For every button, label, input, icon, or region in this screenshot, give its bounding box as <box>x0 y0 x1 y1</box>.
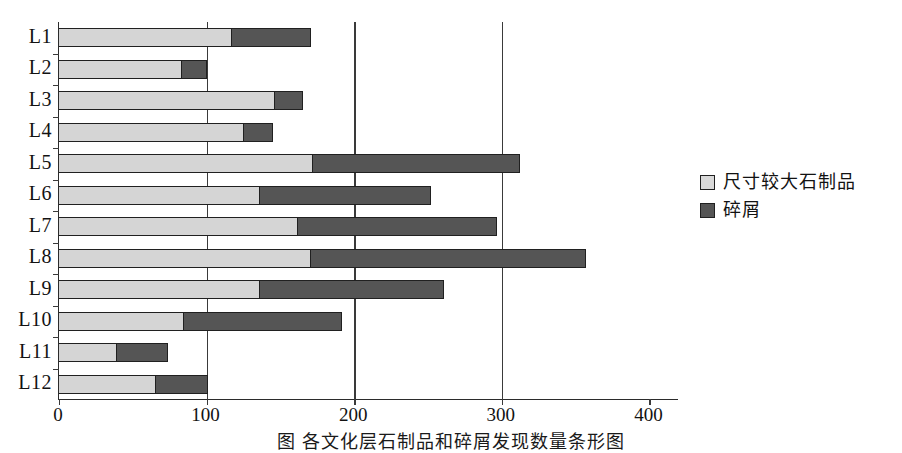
bar-segment-L2-debris <box>182 60 207 79</box>
bar-segment-L11-large-artifacts <box>59 343 117 362</box>
y-tick-L7 <box>53 211 59 212</box>
bar-segment-L11-debris <box>117 343 169 362</box>
chart-legend: 尺寸较大石制品 碎屑 <box>700 168 856 224</box>
bar-row-L5 <box>59 154 520 173</box>
y-axis-label-L2: L2 <box>29 58 52 77</box>
y-axis-label-L4: L4 <box>29 121 52 140</box>
bar-segment-L10-debris <box>184 312 342 331</box>
bar-segment-L8-large-artifacts <box>59 249 311 268</box>
bar-row-L8 <box>59 249 586 268</box>
bar-segment-L1-debris <box>232 28 312 47</box>
bar-row-L7 <box>59 217 497 236</box>
legend-swatch-dark-icon <box>700 203 715 218</box>
y-axis-label-L9: L9 <box>29 279 52 298</box>
bar-segment-L4-large-artifacts <box>59 123 244 142</box>
legend-item-large-artifacts: 尺寸较大石制品 <box>700 168 856 196</box>
y-axis-label-L6: L6 <box>29 184 52 203</box>
legend-item-debris: 碎屑 <box>700 196 856 224</box>
bar-segment-L1-large-artifacts <box>59 28 232 47</box>
legend-label-debris: 碎屑 <box>723 196 761 224</box>
bar-row-L3 <box>59 91 303 110</box>
bar-segment-L7-debris <box>298 217 497 236</box>
bar-segment-L8-debris <box>311 249 586 268</box>
y-axis-labels: L1L2L3L4L5L6L7L8L9L10L11L12 <box>0 22 52 400</box>
bar-segment-L4-debris <box>244 123 274 142</box>
legend-label-large-artifacts: 尺寸较大石制品 <box>723 168 856 196</box>
y-axis-label-L7: L7 <box>29 216 52 235</box>
gridline-x-300 <box>502 22 503 399</box>
bar-row-L1 <box>59 28 311 47</box>
bar-segment-L7-large-artifacts <box>59 217 298 236</box>
y-tick-L6 <box>53 180 59 181</box>
bar-row-L4 <box>59 123 273 142</box>
bar-segment-L3-large-artifacts <box>59 91 275 110</box>
y-tick-L12 <box>53 369 59 370</box>
plot-area <box>58 22 678 400</box>
bar-row-L12 <box>59 375 208 394</box>
bar-segment-L10-large-artifacts <box>59 312 184 331</box>
y-axis-label-L10: L10 <box>18 310 52 329</box>
bar-row-L10 <box>59 312 342 331</box>
bar-row-L11 <box>59 343 168 362</box>
bar-segment-L12-large-artifacts <box>59 375 156 394</box>
x-tick-label-300: 300 <box>461 404 541 426</box>
bar-segment-L3-debris <box>275 91 303 110</box>
bar-row-L9 <box>59 280 444 299</box>
bar-row-L6 <box>59 186 431 205</box>
y-tick-L4 <box>53 117 59 118</box>
x-tick-label-100: 100 <box>166 404 246 426</box>
x-tick-label-0: 0 <box>18 404 98 426</box>
y-tick-L5 <box>53 148 59 149</box>
bar-row-L2 <box>59 60 207 79</box>
y-tick-L9 <box>53 274 59 275</box>
y-tick-L10 <box>53 306 59 307</box>
bar-segment-L5-debris <box>313 154 520 173</box>
bar-segment-L2-large-artifacts <box>59 60 182 79</box>
y-axis-label-L11: L11 <box>19 342 52 361</box>
bar-segment-L6-debris <box>260 186 431 205</box>
gridline-x-100 <box>207 22 208 399</box>
x-tick-label-400: 400 <box>608 404 688 426</box>
y-axis-label-L1: L1 <box>29 27 52 46</box>
bar-segment-L5-large-artifacts <box>59 154 313 173</box>
bar-segment-L12-debris <box>156 375 208 394</box>
bar-segment-L9-large-artifacts <box>59 280 260 299</box>
bar-segment-L9-debris <box>260 280 445 299</box>
y-axis-label-L8: L8 <box>29 247 52 266</box>
figure-caption: 图 各文化层石制品和碎屑发现数量条形图 <box>0 427 902 453</box>
x-tick-label-200: 200 <box>313 404 393 426</box>
y-tick-L2 <box>53 54 59 55</box>
y-axis-label-L5: L5 <box>29 153 52 172</box>
y-tick-L11 <box>53 337 59 338</box>
bar-segment-L6-large-artifacts <box>59 186 260 205</box>
y-axis-label-L3: L3 <box>29 90 52 109</box>
gridline-x-200 <box>354 22 355 399</box>
y-axis-label-L12: L12 <box>18 373 52 392</box>
y-tick-L3 <box>53 85 59 86</box>
legend-swatch-light-icon <box>700 175 715 190</box>
y-tick-L8 <box>53 243 59 244</box>
